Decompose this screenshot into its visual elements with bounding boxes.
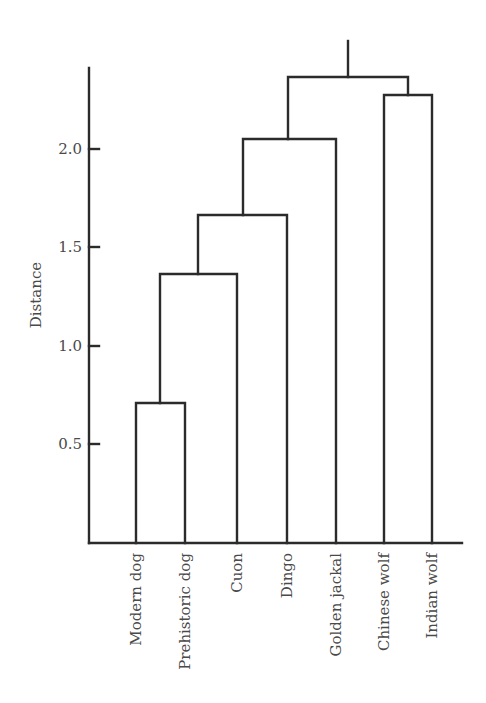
dendrogram-chart: 2.0 1.5 1.0 0.5 Distance Modern dog Preh… (0, 0, 486, 703)
leaf-label-cuon: Cuon (228, 553, 246, 593)
tick-label-1-0: 1.0 (58, 337, 82, 355)
leaf-label-chinese-wolf: Chinese wolf (375, 552, 393, 651)
branch-add-cuon (160, 274, 237, 543)
branch-add-golden-jackal (243, 139, 336, 543)
branch-modern-prehistoric (136, 403, 185, 543)
dendrogram-branches (136, 41, 432, 543)
leaf-label-indian-wolf: Indian wolf (423, 552, 441, 639)
tick-label-0-5: 0.5 (58, 435, 82, 453)
branch-add-dingo (198, 215, 287, 543)
y-axis-title: Distance (27, 262, 45, 329)
leaf-label-modern-dog: Modern dog (127, 553, 145, 646)
tick-label-2-0: 2.0 (58, 140, 82, 158)
branch-root (288, 77, 408, 139)
leaf-label-prehistoric-dog: Prehistoric dog (176, 553, 194, 670)
leaf-label-golden-jackal: Golden jackal (327, 553, 345, 657)
y-tick-labels: 2.0 1.5 1.0 0.5 (58, 140, 82, 453)
leaf-labels: Modern dog Prehistoric dog Cuon Dingo Go… (127, 552, 441, 670)
branch-wolves (384, 95, 432, 543)
leaf-label-dingo: Dingo (278, 553, 296, 598)
tick-label-1-5: 1.5 (58, 238, 82, 256)
y-ticks (89, 149, 99, 444)
